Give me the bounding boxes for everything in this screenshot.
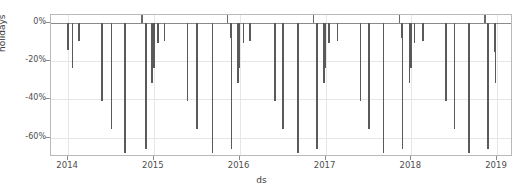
bar: [274, 23, 276, 102]
gridline-horizontal: [51, 138, 511, 139]
y-tick-label: -20%: [2, 56, 46, 64]
bar: [495, 23, 497, 49]
bar: [153, 23, 155, 68]
x-tick-label: 2019: [476, 160, 516, 170]
x-tick-mark: [239, 156, 240, 160]
bar: [402, 23, 404, 150]
bar: [157, 23, 159, 43]
bar: [67, 23, 69, 50]
bar: [328, 23, 330, 43]
bar: [187, 23, 189, 102]
gridline-horizontal: [51, 61, 511, 62]
bar: [422, 23, 424, 41]
x-tick-mark: [410, 156, 411, 160]
bar: [145, 23, 147, 150]
bar: [164, 23, 166, 41]
plot-area: [50, 14, 512, 156]
bar: [368, 23, 370, 130]
bar: [239, 23, 241, 68]
y-tick-mark: [46, 60, 50, 61]
y-tick-label: 0%: [2, 18, 46, 26]
bar: [399, 15, 401, 23]
bar: [141, 15, 143, 23]
x-tick-label: 2017: [305, 160, 345, 170]
x-tick-label: 2018: [390, 160, 430, 170]
y-tick-mark: [46, 22, 50, 23]
bar: [101, 23, 103, 102]
bar: [454, 23, 456, 130]
x-tick-mark: [67, 156, 68, 160]
bar: [124, 23, 126, 153]
x-tick-label: 2015: [133, 160, 173, 170]
x-tick-mark: [496, 156, 497, 160]
bar: [297, 23, 299, 153]
y-tick-label: -40%: [2, 94, 46, 102]
gridline-vertical: [497, 15, 498, 155]
bar: [383, 23, 385, 153]
bar: [484, 15, 486, 23]
bar: [468, 23, 470, 153]
bar: [316, 23, 318, 150]
x-tick-label: 2014: [47, 160, 87, 170]
x-axis-label: ds: [0, 175, 523, 185]
y-tick-mark: [46, 137, 50, 138]
bar: [227, 15, 229, 23]
x-tick-mark: [153, 156, 154, 160]
bar: [410, 23, 412, 68]
bar: [337, 23, 339, 41]
y-tick-label: -60%: [2, 133, 46, 141]
bar: [111, 23, 113, 130]
y-tick-mark: [46, 98, 50, 99]
bar: [249, 23, 251, 41]
holidays-component-chart: holidays 0%-20%-40%-60% 2014201520162017…: [0, 0, 523, 194]
bar: [325, 23, 327, 68]
bar: [313, 15, 315, 23]
bar: [282, 23, 284, 130]
bar: [445, 23, 447, 102]
bar: [212, 23, 214, 153]
x-tick-mark: [325, 156, 326, 160]
zero-baseline: [51, 23, 511, 24]
bar: [360, 23, 362, 102]
chart-title: [50, 0, 512, 10]
x-tick-label: 2016: [219, 160, 259, 170]
bar: [243, 23, 245, 43]
bar: [78, 23, 80, 41]
gridline-horizontal: [51, 99, 511, 100]
bar: [72, 23, 74, 68]
bar: [231, 23, 233, 150]
bar: [196, 23, 198, 130]
bar: [414, 23, 416, 43]
bar: [487, 23, 489, 150]
